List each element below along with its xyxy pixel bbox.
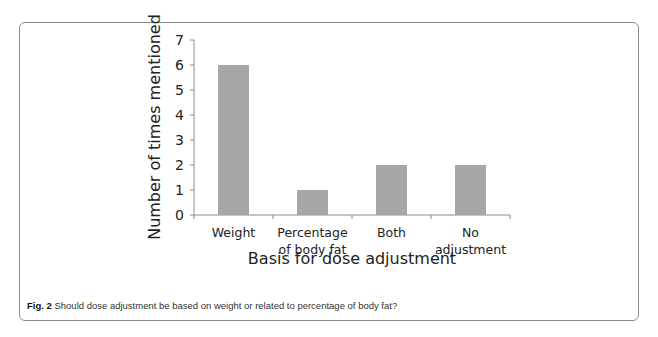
y-tick-label: 2: [175, 157, 184, 173]
x-axis-label: Basis for dose adjustment: [248, 249, 456, 268]
y-axis-title: Number of times mentioned: [145, 14, 164, 240]
bar: [218, 65, 249, 215]
x-category-label: Percentage: [277, 225, 348, 240]
y-tick-label: 4: [175, 107, 184, 123]
figure-label: Fig. 2: [27, 300, 52, 311]
bar: [455, 165, 486, 215]
y-tick-label: 1: [175, 182, 184, 198]
y-axis: 01234567: [175, 32, 194, 223]
y-tick-label: 5: [175, 82, 184, 98]
caption-text: Should dose adjustment be based on weigh…: [54, 300, 397, 311]
y-tick-label: 7: [175, 32, 184, 48]
x-category-label: No: [462, 225, 479, 240]
x-axis: [194, 215, 510, 219]
bar: [297, 190, 328, 215]
figure-caption: Fig. 2 Should dose adjustment be based o…: [27, 300, 397, 311]
y-axis-label: Number of times mentioned: [145, 14, 164, 240]
y-tick-label: 6: [175, 57, 184, 73]
bar: [376, 165, 407, 215]
y-tick-label: 0: [175, 207, 184, 223]
x-category-label: Both: [377, 225, 406, 240]
x-category-label: Weight: [212, 225, 256, 240]
bar-chart: Number of times mentioned 01234567 Weigh…: [0, 0, 658, 337]
y-tick-label: 3: [175, 132, 184, 148]
bars: [218, 65, 486, 215]
